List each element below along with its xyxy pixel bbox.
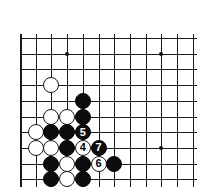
- grid-line-vertical: [36, 34, 37, 187]
- white-stone-b7: [28, 124, 44, 140]
- grid-line-horizontal: [20, 69, 197, 70]
- grid-line-vertical: [146, 34, 147, 187]
- goban-grid: 5476: [0, 0, 224, 187]
- black-stone-move-7: 7: [91, 140, 107, 156]
- star-point-lower-right: [159, 146, 163, 150]
- grid-line-vertical: [177, 34, 178, 187]
- black-stone-e9: [75, 156, 91, 172]
- black-stone-c7: [43, 124, 59, 140]
- move-number-label: 6: [95, 158, 101, 169]
- black-stone-move-5: 5: [75, 124, 91, 140]
- black-stone-c9: [43, 156, 59, 172]
- grid-line-vertical: [193, 34, 194, 187]
- move-number-label: 7: [95, 142, 101, 153]
- grid-line-horizontal: [20, 101, 197, 102]
- white-stone-d9: [59, 156, 75, 172]
- star-point-upper-right: [159, 52, 163, 56]
- move-number-label: 4: [80, 142, 86, 153]
- black-stone-e5: [75, 93, 91, 109]
- black-stone-g9: [106, 156, 122, 172]
- grid-line-vertical: [130, 34, 131, 187]
- go-board-diagram: 5476: [0, 0, 224, 187]
- white-stone-b8: [28, 140, 44, 156]
- grid-line-vertical: [161, 34, 162, 187]
- white-stone-c8: [43, 140, 59, 156]
- grid-line-horizontal: [20, 54, 197, 55]
- black-stone-c10: [43, 171, 59, 187]
- white-stone-d6: [59, 109, 75, 125]
- black-stone-e10: [75, 171, 91, 187]
- grid-line-horizontal: [20, 38, 197, 39]
- white-stone-c4: [43, 77, 59, 93]
- black-stone-d7: [59, 124, 75, 140]
- black-stone-d8: [59, 140, 75, 156]
- black-stone-e6: [75, 109, 91, 125]
- star-point-upper-left: [65, 52, 69, 56]
- white-stone-c6: [43, 109, 59, 125]
- white-stone-move-6: 6: [91, 156, 107, 172]
- white-stone-d10: [59, 171, 75, 187]
- board-left-edge: [20, 34, 22, 187]
- white-stone-move-4: 4: [75, 140, 91, 156]
- move-number-label: 5: [80, 127, 86, 138]
